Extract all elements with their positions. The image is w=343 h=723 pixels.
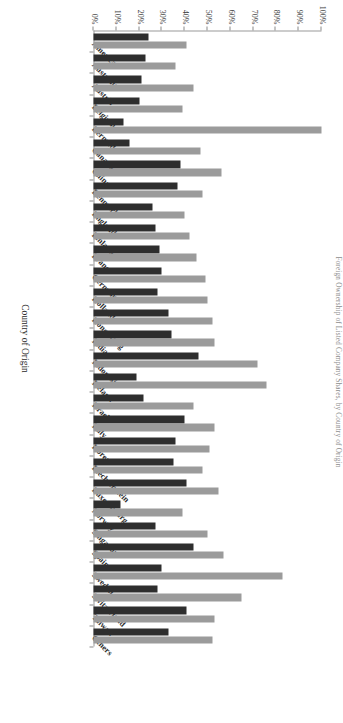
bar <box>93 190 202 197</box>
bar-group <box>93 160 321 175</box>
bar <box>93 97 139 104</box>
category-tick <box>89 157 93 158</box>
bar <box>93 402 193 409</box>
bar-group <box>93 415 321 430</box>
category-tick <box>89 221 93 222</box>
bar <box>93 636 212 643</box>
category-tick <box>89 519 93 520</box>
bar <box>93 54 145 61</box>
bar <box>93 211 184 218</box>
bar <box>93 267 161 274</box>
plot-area: 100%90%80%70%60%50%40%30%20%10%0% Americ… <box>93 30 321 646</box>
bar-group <box>93 182 321 197</box>
value-tick-label: 100% <box>317 0 325 24</box>
bar <box>93 628 168 635</box>
bar <box>93 466 202 473</box>
category-tick <box>89 72 93 73</box>
bar <box>93 551 223 558</box>
bar <box>93 606 186 613</box>
bar <box>93 522 155 529</box>
category-tick <box>89 561 93 562</box>
bar <box>93 253 196 260</box>
bar <box>93 564 161 571</box>
bar-group <box>93 373 321 388</box>
bar <box>93 41 186 48</box>
bar <box>93 543 193 550</box>
bar <box>93 275 205 282</box>
value-tick <box>206 26 207 30</box>
value-tick <box>320 26 321 30</box>
bar-group <box>93 33 321 48</box>
value-tick <box>92 26 93 30</box>
bar <box>93 381 266 388</box>
value-tick-label: 20% <box>135 0 143 24</box>
value-tick <box>115 26 116 30</box>
value-tick <box>274 26 275 30</box>
bar <box>93 479 186 486</box>
bar <box>93 437 175 444</box>
bar <box>93 352 198 359</box>
bar <box>93 572 282 579</box>
category-tick <box>89 349 93 350</box>
bar <box>93 296 207 303</box>
bar <box>93 288 157 295</box>
bar-group <box>93 97 321 112</box>
bar-group <box>93 139 321 154</box>
value-tick-label: 10% <box>112 0 120 24</box>
category-axis-title: Country of Origin <box>19 30 29 646</box>
bar-group <box>93 394 321 409</box>
bar <box>93 309 168 316</box>
category-tick <box>89 412 93 413</box>
bar-group <box>93 224 321 239</box>
bar <box>93 445 209 452</box>
bar <box>93 105 182 112</box>
category-tick <box>89 115 93 116</box>
bar <box>93 33 148 40</box>
category-tick <box>89 264 93 265</box>
chart-stage: Foreign Ownership of Listed Company Shar… <box>0 0 343 723</box>
bar <box>93 330 171 337</box>
bar <box>93 232 189 239</box>
bar <box>93 245 159 252</box>
value-tick-label: 0% <box>89 0 97 24</box>
value-tick-label: 60% <box>226 0 234 24</box>
bar <box>93 423 214 430</box>
bar-group <box>93 75 321 90</box>
bar <box>93 168 221 175</box>
bar <box>93 62 175 69</box>
bar-group <box>93 309 321 324</box>
bar <box>93 500 120 507</box>
chart-title: Foreign Ownership of Listed Company Shar… <box>333 0 341 723</box>
value-tick-label: 90% <box>294 0 302 24</box>
value-tick-label: 40% <box>180 0 188 24</box>
category-tick <box>89 625 93 626</box>
value-tick <box>138 26 139 30</box>
category-tick <box>89 434 93 435</box>
bar-group <box>93 118 321 133</box>
value-tick <box>297 26 298 30</box>
category-tick <box>89 306 93 307</box>
bar-group <box>93 267 321 282</box>
category-tick <box>89 327 93 328</box>
value-tick-label: 30% <box>157 0 165 24</box>
bar <box>93 415 184 422</box>
category-tick <box>89 476 93 477</box>
bar <box>93 160 180 167</box>
bar-group <box>93 330 321 345</box>
bar <box>93 487 218 494</box>
bar-group <box>93 288 321 303</box>
bar <box>93 139 129 146</box>
bar <box>93 126 321 133</box>
bar-group <box>93 585 321 600</box>
value-tick-label: 80% <box>271 0 279 24</box>
bar <box>93 394 143 401</box>
bar-group <box>93 522 321 537</box>
bar <box>93 360 257 367</box>
category-tick <box>89 94 93 95</box>
bar <box>93 75 141 82</box>
value-tick <box>160 26 161 30</box>
bar-group <box>93 500 321 515</box>
bar-group <box>93 564 321 579</box>
bar <box>93 182 177 189</box>
chart-canvas: Foreign Ownership of Listed Company Shar… <box>0 0 343 723</box>
